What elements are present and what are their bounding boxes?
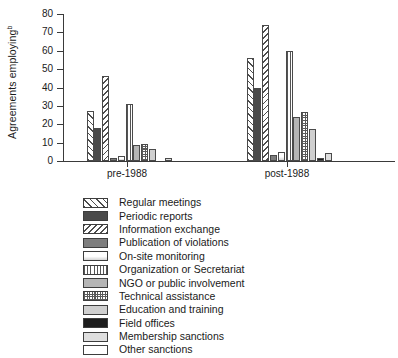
legend-label: Organization or Secretariat: [119, 264, 244, 275]
bar-group: [247, 14, 340, 161]
legend-label: Periodic reports: [119, 211, 193, 222]
legend-swatch-icon: [83, 318, 108, 328]
bar-membership-sanctions: [325, 153, 332, 161]
legend-item[interactable]: Education and training: [83, 303, 383, 316]
bar-publication-of-violations: [110, 158, 117, 161]
y-axis-tick-label: 30: [31, 101, 53, 111]
bar-on-site-monitoring: [118, 156, 125, 161]
y-axis-tick-label: 50: [31, 64, 53, 74]
legend-swatch-icon: [83, 211, 108, 221]
bar-organization-or-secretariat: [126, 104, 133, 161]
legend-item[interactable]: Membership sanctions: [83, 330, 383, 343]
bar-information-exchange: [102, 76, 109, 161]
y-axis-title-text: Agreements employing: [6, 30, 18, 139]
x-axis-tick: [287, 161, 288, 167]
x-axis-line: [63, 161, 395, 162]
legend-swatch-icon: [83, 345, 108, 355]
legend-swatch-icon: [83, 251, 108, 261]
legend-label: Other sanctions: [119, 344, 193, 355]
y-axis-tick-label: 0: [31, 156, 53, 166]
bar-education-and-training: [309, 129, 316, 161]
x-axis-tick-label-post-1988: post-1988: [232, 168, 342, 179]
y-axis-title-superscript: b: [6, 26, 13, 30]
bars-container: [63, 14, 395, 161]
legend-swatch-icon: [83, 238, 108, 248]
y-axis-tick-label: 80: [31, 9, 53, 19]
bar-membership-sanctions: [165, 158, 172, 161]
legend-label: Field offices: [119, 318, 175, 329]
legend-swatch-icon: [83, 332, 108, 342]
y-axis-tick-label: 20: [31, 119, 53, 129]
bar-ngo-or-public-involvement: [133, 145, 140, 161]
legend: Regular meetingsPeriodic reportsInformat…: [83, 196, 383, 357]
bar-technical-assistance: [301, 112, 308, 161]
bar-periodic-reports: [254, 88, 261, 162]
legend-label: Regular meetings: [119, 197, 201, 208]
legend-item[interactable]: Organization or Secretariat: [83, 263, 383, 276]
bar-information-exchange: [262, 25, 269, 161]
legend-label: Membership sanctions: [119, 331, 224, 342]
legend-label: Information exchange: [119, 224, 220, 235]
legend-swatch-icon: [83, 291, 108, 301]
bar-chart: Agreements employingb 01020304050607080 …: [0, 0, 398, 358]
bar-education-and-training: [149, 149, 156, 161]
y-axis-title: Agreements employingb: [6, 7, 19, 157]
bar-ngo-or-public-involvement: [293, 117, 300, 161]
x-axis-tick-label-pre-1988: pre-1988: [72, 168, 182, 179]
bar-periodic-reports: [94, 128, 101, 161]
legend-item[interactable]: Field offices: [83, 317, 383, 330]
legend-label: Education and training: [119, 304, 224, 315]
legend-item[interactable]: Periodic reports: [83, 209, 383, 222]
legend-item[interactable]: Regular meetings: [83, 196, 383, 209]
bar-field-offices: [317, 158, 324, 161]
y-axis-tick-label: 60: [31, 46, 53, 56]
legend-label: On-site monitoring: [119, 251, 205, 262]
legend-swatch-icon: [83, 198, 108, 208]
legend-item[interactable]: Other sanctions: [83, 343, 383, 356]
legend-item[interactable]: NGO or public involvement: [83, 276, 383, 289]
bar-on-site-monitoring: [278, 152, 285, 161]
legend-swatch-icon: [83, 305, 108, 315]
legend-swatch-icon: [83, 224, 108, 234]
legend-label: NGO or public involvement: [119, 278, 244, 289]
legend-swatch-icon: [83, 278, 108, 288]
legend-item[interactable]: Publication of violations: [83, 236, 383, 249]
bar-organization-or-secretariat: [286, 51, 293, 161]
legend-item[interactable]: Technical assistance: [83, 290, 383, 303]
bar-regular-meetings: [87, 111, 94, 161]
y-axis-tick: [57, 161, 63, 162]
x-axis-tick: [127, 161, 128, 167]
y-axis-tick-label: 40: [31, 83, 53, 93]
legend-item[interactable]: On-site monitoring: [83, 250, 383, 263]
y-axis-tick-label: 10: [31, 138, 53, 148]
legend-label: Technical assistance: [119, 291, 215, 302]
bar-group: [87, 14, 180, 161]
bar-publication-of-violations: [270, 155, 277, 161]
legend-item[interactable]: Information exchange: [83, 223, 383, 236]
bar-regular-meetings: [247, 58, 254, 161]
legend-swatch-icon: [83, 265, 108, 275]
y-axis-tick-label: 70: [31, 27, 53, 37]
plot-area: Agreements employingb 01020304050607080 …: [0, 0, 398, 186]
legend-label: Publication of violations: [119, 237, 229, 248]
bar-technical-assistance: [141, 144, 148, 161]
